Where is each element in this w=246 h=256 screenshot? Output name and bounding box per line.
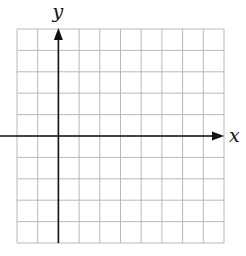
x-axis-label: x [229, 124, 240, 146]
axes [0, 28, 224, 243]
y-axis-label: y [51, 0, 63, 22]
y-axis-arrow-icon [54, 28, 63, 40]
coordinate-grid: x y [0, 0, 246, 256]
x-axis-arrow-icon [212, 132, 224, 141]
